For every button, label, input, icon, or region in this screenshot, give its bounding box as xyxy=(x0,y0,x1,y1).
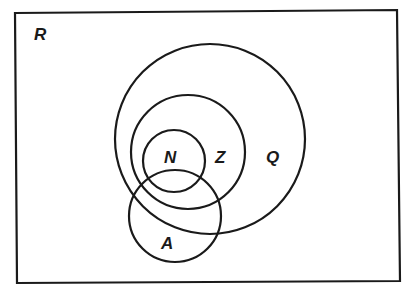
set-label-a: A xyxy=(160,234,173,253)
set-z-circle xyxy=(131,95,245,209)
universe-frame-r xyxy=(15,10,400,283)
set-label-q: Q xyxy=(266,148,279,167)
set-a-circle xyxy=(129,170,221,262)
universe-label-r: R xyxy=(34,25,47,44)
set-label-n: N xyxy=(164,148,177,167)
venn-diagram: R Q Z N A xyxy=(0,0,411,286)
set-label-z: Z xyxy=(214,148,226,167)
